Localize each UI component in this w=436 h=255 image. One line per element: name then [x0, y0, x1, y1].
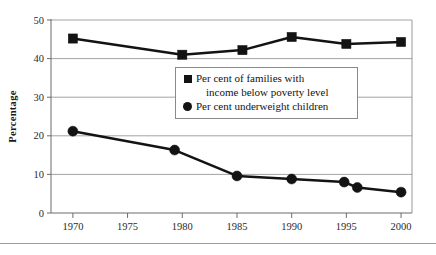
series-line [73, 37, 401, 55]
y-tick-label: 10 [34, 169, 45, 180]
legend-item-poverty-families: Per cent of families withincome below po… [181, 72, 351, 99]
data-point-marker [339, 177, 349, 187]
y-tick-label: 0 [39, 208, 44, 219]
data-point-marker [232, 171, 242, 181]
y-axis-ticks: 01020304050 [34, 15, 52, 219]
data-point-marker [342, 39, 351, 48]
footer-divider [0, 243, 436, 244]
y-tick-label: 50 [34, 15, 45, 26]
data-point-marker [287, 32, 296, 41]
x-tick-label: 1990 [281, 221, 302, 232]
x-tick-label: 1980 [172, 221, 193, 232]
legend-item-label: Per cent of families withincome below po… [194, 72, 329, 99]
legend-circle-marker-icon [181, 100, 194, 114]
chart-legend: Per cent of families withincome below po… [175, 67, 358, 119]
series-poverty-families [68, 32, 405, 59]
y-tick-label: 30 [34, 92, 45, 103]
data-point-marker [287, 174, 297, 184]
chart-figure: 01020304050 1970197519801985199019952000… [0, 0, 436, 255]
legend-item-label: Per cent underweight children [194, 100, 328, 114]
series-underweight-children [68, 126, 406, 197]
x-tick-label: 1970 [62, 221, 83, 232]
y-axis-title-text: Percentage [7, 90, 18, 142]
data-point-marker [170, 145, 180, 155]
data-point-marker [68, 126, 78, 136]
legend-square-marker-icon [181, 72, 194, 86]
data-point-marker [352, 183, 362, 193]
y-tick-label: 20 [34, 130, 45, 141]
y-axis-title: Percentage [7, 90, 18, 142]
data-point-marker [396, 37, 405, 46]
series-line [73, 131, 401, 192]
data-point-marker [178, 50, 187, 59]
chart-plot-area: 01020304050 1970197519801985199019952000… [0, 0, 436, 255]
x-axis-ticks: 1970197519801985199019952000 [62, 213, 411, 232]
legend-item-underweight-children: Per cent underweight children [181, 100, 351, 114]
x-tick-label: 1985 [226, 221, 247, 232]
data-point-marker [68, 34, 77, 43]
x-tick-label: 1975 [117, 221, 138, 232]
y-tick-label: 40 [34, 53, 45, 64]
x-tick-label: 2000 [391, 221, 412, 232]
data-point-marker [396, 187, 406, 197]
data-point-marker [238, 46, 247, 55]
x-tick-label: 1995 [336, 221, 357, 232]
